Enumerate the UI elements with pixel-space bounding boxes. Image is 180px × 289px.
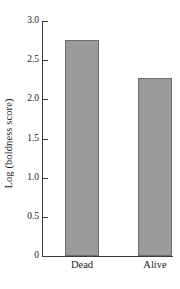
x-axis-label-alive: Alive <box>125 260 180 271</box>
y-axis-tick-label: 1.0 <box>5 173 39 183</box>
y-axis-tick-label: 2.5 <box>5 55 39 65</box>
bar-chart: Log (boldness score) 00.51.01.52.02.53.0… <box>0 0 180 289</box>
y-axis-tick <box>43 217 48 218</box>
y-axis-tick-label: 0 <box>5 251 39 261</box>
y-axis-title: Log (boldness score) <box>0 0 16 289</box>
bar-alive <box>138 78 172 256</box>
y-axis-tick <box>43 21 48 22</box>
y-axis-tick <box>43 60 48 61</box>
bar-dead <box>65 40 99 256</box>
y-axis-tick <box>43 99 48 100</box>
x-axis-line <box>42 256 173 257</box>
y-axis-tick-label: 2.0 <box>5 95 39 105</box>
y-axis-tick-label: 3.0 <box>5 16 39 26</box>
y-axis-tick-label: 0.5 <box>5 212 39 222</box>
y-axis-tick <box>43 139 48 140</box>
y-axis-tick <box>43 256 48 257</box>
x-axis-label-dead: Dead <box>52 260 112 271</box>
y-axis-tick-label: 1.5 <box>5 134 39 144</box>
y-axis-tick <box>43 178 48 179</box>
